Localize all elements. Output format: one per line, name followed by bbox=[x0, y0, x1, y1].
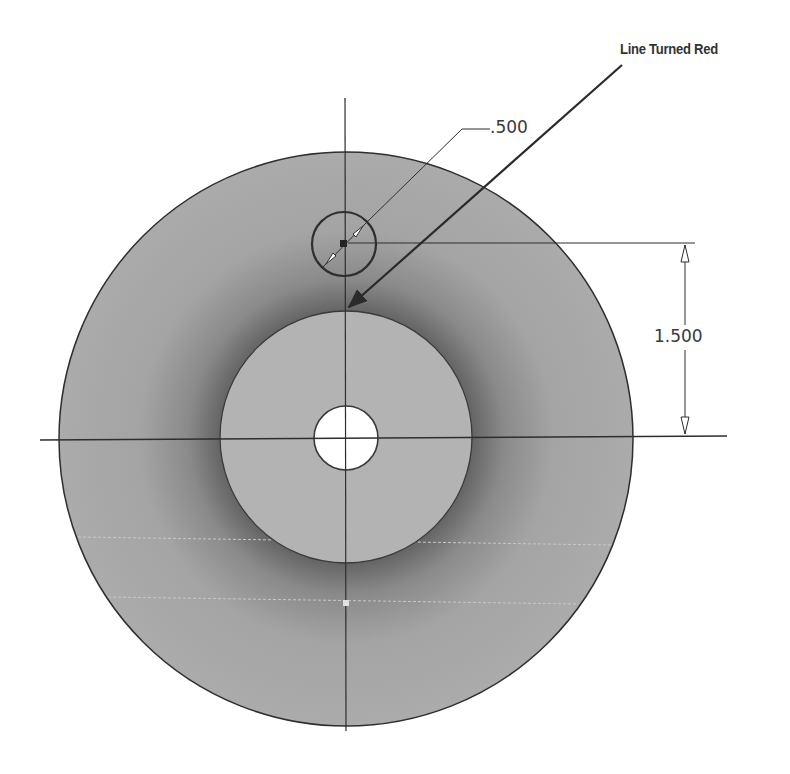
callout-label: Line Turned Red bbox=[620, 41, 718, 57]
vertical-dimension-value[interactable]: 1.500 bbox=[653, 326, 704, 346]
cad-sketch-canvas[interactable] bbox=[0, 0, 790, 774]
point-marker[interactable] bbox=[343, 600, 349, 606]
diameter-dimension-value[interactable]: .500 bbox=[490, 117, 528, 137]
